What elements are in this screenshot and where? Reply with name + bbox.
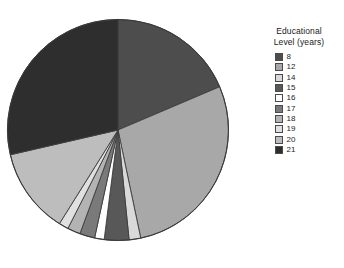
legend-item-12[interactable]: 12 [275,62,344,72]
pie-chart-plot-area [4,16,232,244]
legend-swatch-icon [275,94,283,102]
top-note-text [190,0,344,12]
legend-title-line-1: Educational [256,26,342,37]
legend-item-20[interactable]: 20 [275,134,344,144]
legend-item-8[interactable]: 8 [275,52,344,62]
legend-title-line-2: Level (years) [256,37,342,48]
legend-item-label: 15 [287,84,296,92]
legend-swatch-icon [275,146,283,154]
legend-swatch-icon [275,74,283,82]
legend-item-label: 21 [287,146,296,154]
pie-chart-figure: Educational Level (years) 81214151617181… [0,0,344,268]
legend-items: 8121415161718192021 [275,52,344,155]
legend-item-label: 18 [287,115,296,123]
legend-item-label: 20 [287,136,296,144]
legend-swatch-icon [275,125,283,133]
legend-item-18[interactable]: 18 [275,114,344,124]
legend-title: Educational Level (years) [256,26,342,47]
legend-item-19[interactable]: 19 [275,124,344,134]
legend-item-label: 16 [287,94,296,102]
legend-item-15[interactable]: 15 [275,83,344,93]
legend-item-21[interactable]: 21 [275,145,344,155]
legend-swatch-icon [275,53,283,61]
legend-item-17[interactable]: 17 [275,103,344,113]
legend-swatch-icon [275,63,283,71]
legend-item-14[interactable]: 14 [275,73,344,83]
legend: Educational Level (years) 81214151617181… [256,26,344,155]
pie-chart-svg [4,16,232,244]
legend-swatch-icon [275,84,283,92]
legend-item-label: 12 [287,63,296,71]
legend-swatch-icon [275,105,283,113]
legend-item-16[interactable]: 16 [275,93,344,103]
legend-item-label: 19 [287,125,296,133]
legend-item-label: 14 [287,74,296,82]
legend-item-label: 8 [287,53,291,61]
pie-slices-group [7,19,228,240]
legend-swatch-icon [275,115,283,123]
legend-swatch-icon [275,136,283,144]
legend-item-label: 17 [287,105,296,113]
